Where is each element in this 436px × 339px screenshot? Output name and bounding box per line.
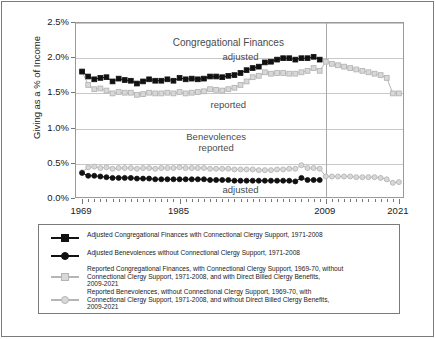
x-tick-mark: [289, 199, 290, 202]
series-marker: [110, 166, 115, 171]
series-marker: [329, 174, 334, 179]
x-tick-mark: [234, 199, 235, 202]
x-tick-mark: [241, 199, 242, 202]
x-tick-mark: [332, 199, 333, 202]
series-marker: [147, 90, 152, 95]
series-marker: [165, 77, 170, 82]
x-tick-mark: [375, 199, 376, 202]
series-marker: [159, 78, 164, 83]
legend-marker-icon: [47, 271, 87, 283]
series-marker: [214, 166, 219, 171]
series-marker: [244, 79, 249, 84]
series-marker: [372, 71, 377, 76]
series-marker: [366, 70, 371, 75]
x-tick-mark: [119, 199, 120, 202]
x-tick-mark: [94, 199, 95, 202]
series-marker: [183, 177, 188, 182]
series-marker: [293, 166, 298, 171]
chart-annotation: Congregational Finances: [173, 37, 284, 48]
series-marker: [183, 166, 188, 171]
series-marker: [195, 90, 200, 95]
series-marker: [159, 177, 164, 182]
series-marker: [128, 175, 133, 180]
x-tick-mark: [271, 199, 272, 202]
x-tick-mark: [308, 199, 309, 202]
series-marker: [317, 68, 322, 73]
x-tick-mark: [314, 199, 315, 202]
x-tick-mark: [301, 199, 302, 202]
series-marker: [323, 59, 328, 64]
x-tick-mark: [88, 199, 89, 202]
series-marker: [311, 66, 316, 71]
y-tick-mark: [71, 92, 75, 93]
series-marker: [201, 166, 206, 171]
series-marker: [220, 88, 225, 93]
legend-item[interactable]: Adjusted Congregational Finances with Co…: [39, 231, 399, 244]
legend-marker-icon: [47, 294, 87, 306]
series-marker: [378, 73, 383, 78]
series-marker: [110, 79, 115, 84]
series-marker: [226, 177, 231, 182]
x-tick-mark: [192, 199, 193, 202]
series-marker: [250, 167, 255, 172]
x-tick-label: 1969: [71, 205, 92, 216]
series-marker: [86, 74, 91, 79]
legend-item[interactable]: Reported Benevolences, without Connectio…: [39, 288, 399, 311]
x-tick-mark: [216, 199, 217, 202]
series-marker: [226, 166, 231, 171]
series-marker: [293, 179, 298, 184]
legend-marker-icon: [47, 250, 87, 262]
chart-annotation: reported: [198, 142, 233, 153]
chart-legend: Adjusted Congregational Finances with Co…: [38, 224, 400, 314]
series-marker: [141, 166, 146, 171]
x-tick-mark: [186, 199, 187, 202]
series-marker: [177, 90, 182, 95]
chart-annotation: adjusted: [223, 51, 259, 62]
series-marker: [159, 166, 164, 171]
series-marker: [378, 175, 383, 180]
series-marker: [141, 79, 146, 84]
series-marker: [305, 166, 310, 171]
x-tick-mark: [106, 199, 107, 202]
series-marker: [262, 60, 267, 65]
x-tick-label: 1985: [168, 205, 189, 216]
series-marker: [262, 70, 267, 75]
series-marker: [299, 163, 304, 168]
series-marker: [287, 71, 292, 76]
series-marker: [262, 168, 267, 173]
x-tick-mark: [253, 199, 254, 202]
legend-item[interactable]: Adjusted Benevolences without Connection…: [39, 249, 399, 262]
series-marker: [183, 91, 188, 96]
series-marker: [287, 178, 292, 183]
series-marker: [256, 64, 261, 69]
series-marker: [342, 64, 347, 69]
series-marker: [360, 68, 365, 73]
x-tick-mark: [295, 199, 296, 202]
series-marker: [208, 74, 213, 79]
series-marker: [141, 176, 146, 181]
series-marker: [165, 177, 170, 182]
series-marker: [305, 56, 310, 61]
series-marker: [171, 177, 176, 182]
x-tick-mark: [399, 199, 400, 204]
series-marker: [116, 90, 121, 95]
series-marker: [268, 168, 273, 173]
x-tick-mark: [320, 199, 321, 202]
series-marker: [268, 178, 273, 183]
series-marker: [214, 177, 219, 182]
x-tick-mark: [137, 199, 138, 202]
legend-item[interactable]: Reported Congregational Finances, with C…: [39, 265, 399, 288]
series-marker: [232, 85, 237, 90]
series-marker: [232, 178, 237, 183]
legend-label: Adjusted Congregational Finances with Co…: [87, 231, 399, 239]
series-marker: [98, 86, 103, 91]
series-marker: [214, 87, 219, 92]
series-marker: [116, 166, 121, 171]
series-marker: [329, 61, 334, 66]
series-marker: [86, 173, 91, 178]
x-tick-mark: [338, 199, 339, 202]
legend-marker-icon: [47, 232, 87, 244]
series-marker: [275, 57, 280, 62]
x-tick-mark: [198, 199, 199, 202]
series-marker: [299, 70, 304, 75]
